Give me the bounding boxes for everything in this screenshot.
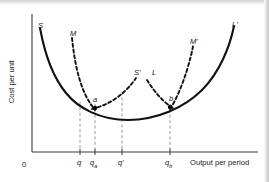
x-tick-q-base: q bbox=[77, 158, 81, 167]
y-axis-title: Cost per unit bbox=[8, 52, 16, 112]
short-run-marginal-curve-m bbox=[72, 38, 95, 110]
page-edge-shadow-top bbox=[0, 0, 269, 5]
x-tick-label-qb: qb bbox=[165, 159, 172, 169]
x-tick-qprime-base: q' bbox=[118, 158, 124, 167]
curve-label-s-prime: S' bbox=[134, 69, 140, 77]
cost-curve-figure: S M S' L M' L' a b q qa q' qb 0 Cost per… bbox=[0, 0, 269, 182]
x-tick-label-qa: qa bbox=[90, 159, 97, 169]
x-tick-qb-sub: b bbox=[169, 163, 172, 169]
x-tick-label-q: q bbox=[77, 159, 81, 167]
point-label-a: a bbox=[93, 96, 97, 104]
curve-label-s: S bbox=[38, 22, 43, 30]
x-tick-label-qprime: q' bbox=[118, 159, 124, 167]
page-edge-shadow-right bbox=[264, 0, 269, 182]
curve-label-m-prime: M' bbox=[190, 38, 198, 46]
curve-label-m: M bbox=[70, 30, 76, 38]
point-label-b: b bbox=[169, 95, 173, 103]
point-a-marker bbox=[93, 106, 97, 110]
x-tick-qa-sub: a bbox=[94, 163, 97, 169]
curve-label-l: L bbox=[152, 69, 156, 77]
curve-label-l-prime: L' bbox=[232, 21, 238, 29]
point-b-marker bbox=[168, 105, 172, 109]
x-axis-title: Output per period bbox=[190, 159, 249, 167]
origin-label: 0 bbox=[22, 160, 26, 169]
short-run-average-curve-s-prime bbox=[92, 78, 136, 109]
